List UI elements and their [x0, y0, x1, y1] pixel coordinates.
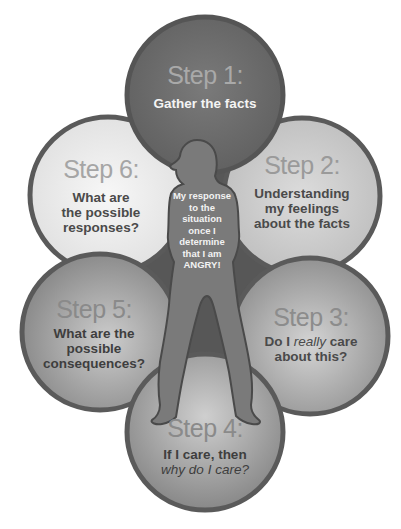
step-3-description: Do I really care about this?	[264, 334, 357, 364]
step-5-line-2: possible	[43, 341, 145, 356]
center-line-7: ANGRY!	[173, 259, 231, 271]
step-5-description: What are the possible consequences?	[43, 326, 145, 371]
step-6-description: What are the possible responses?	[62, 190, 141, 235]
step-4-number: Step 4:	[167, 415, 243, 441]
step-6-line-2: the possible	[62, 205, 141, 220]
step-1-line-1: Gather the facts	[154, 96, 257, 111]
center-line-2: to the	[173, 202, 231, 214]
center-line-3: situation	[173, 213, 231, 225]
step-2-description: Understanding my feelings about the fact…	[254, 186, 350, 231]
step-5-number: Step 5:	[56, 296, 132, 322]
step-2-line-3: about the facts	[254, 216, 350, 231]
step-1-number: Step 1:	[167, 62, 243, 88]
center-line-5: determine	[173, 236, 231, 248]
center-line-4: once I	[173, 225, 231, 237]
step-2-line-2: my feelings	[254, 201, 350, 216]
step-6-line-3: responses?	[62, 220, 141, 235]
center-statement: My response to the situation once I dete…	[173, 190, 231, 271]
anger-steps-diagram: Step 1: Gather the facts Step 2: Underst…	[0, 0, 401, 529]
step-3-line-1: Do I really care	[264, 334, 357, 349]
step-5-line-1: What are the	[43, 326, 145, 341]
step-6-line-1: What are	[62, 190, 141, 205]
step-2-number: Step 2:	[264, 152, 340, 178]
center-line-6: that I am	[173, 248, 231, 260]
step-5-line-3: consequences?	[43, 356, 145, 371]
step-4-description: If I care, then why do I care?	[161, 447, 249, 477]
step-4-line-1: If I care, then	[161, 447, 249, 462]
center-line-1: My response	[173, 190, 231, 202]
step-2-line-1: Understanding	[254, 186, 350, 201]
step-6-number: Step 6:	[63, 156, 139, 182]
step-4-line-2: why do I care?	[161, 462, 249, 477]
step-3-line-2: about this?	[264, 349, 357, 364]
step-3-number: Step 3:	[273, 304, 349, 330]
step-1-description: Gather the facts	[154, 96, 257, 111]
